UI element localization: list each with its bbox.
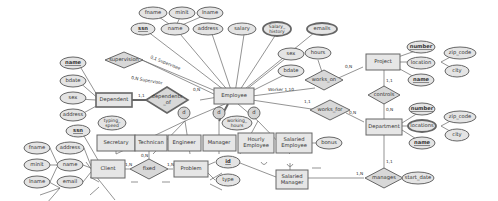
- svg-text:1,1: 1,1: [386, 78, 393, 83]
- svg-text:Problem: Problem: [180, 165, 201, 171]
- attr-typing-speed: typing_ speed: [98, 116, 126, 130]
- relationship-works-for[interactable]: works_for: [310, 100, 350, 120]
- svg-text:ssn: ssn: [138, 25, 148, 31]
- svg-text:name: name: [63, 161, 78, 167]
- entity-problem[interactable]: Problem: [174, 161, 208, 177]
- svg-text:0,N: 0,N: [193, 87, 200, 92]
- svg-text:locations: locations: [410, 122, 434, 128]
- svg-text:lname: lname: [202, 9, 218, 15]
- client-attributes: ssn address name email fname minit lname: [24, 125, 98, 188]
- entity-department[interactable]: Department: [366, 119, 402, 135]
- svg-text:Dependent: Dependent: [100, 96, 129, 103]
- entity-salaried-manager[interactable]: Salaried Manager: [276, 170, 308, 189]
- svg-text:city: city: [452, 67, 461, 74]
- department-attributes: number locations name zip_code city: [408, 103, 476, 149]
- svg-text:name: name: [414, 139, 431, 145]
- specialization-d1: d: [178, 107, 190, 119]
- svg-text:fname: fname: [29, 144, 46, 150]
- entity-technician[interactable]: Technican: [135, 135, 167, 151]
- project-attributes: number location name zip_code city: [407, 41, 476, 86]
- relationship-supervision[interactable]: supervision: [105, 52, 143, 68]
- svg-text:address: address: [60, 144, 81, 150]
- svg-text:number: number: [411, 105, 434, 111]
- svg-text:0,N: 0,N: [345, 64, 352, 69]
- svg-text:location: location: [411, 59, 432, 65]
- svg-text:Project: Project: [374, 58, 392, 65]
- svg-text:name: name: [65, 59, 82, 65]
- svg-text:history: history: [269, 29, 285, 34]
- svg-text:name: name: [413, 76, 430, 82]
- entity-employee[interactable]: Employee: [214, 88, 254, 104]
- svg-text:0,N: 0,N: [349, 110, 356, 115]
- svg-text:address: address: [198, 25, 219, 31]
- svg-text:0,N: 0,N: [386, 107, 393, 112]
- svg-text:Manager: Manager: [281, 179, 305, 186]
- svg-text:city: city: [452, 131, 461, 138]
- svg-text:lname: lname: [29, 178, 45, 184]
- svg-text:ssn: ssn: [73, 127, 83, 133]
- svg-text:bdate: bdate: [66, 77, 81, 83]
- svg-text:Employee: Employee: [243, 142, 269, 149]
- specialization-d3: d: [248, 107, 260, 119]
- entity-project[interactable]: Project: [366, 54, 400, 70]
- entity-secretary[interactable]: Secretary: [97, 135, 135, 151]
- relationship-manages[interactable]: manages: [365, 168, 403, 188]
- entity-salaried-employee[interactable]: Salaried Employee: [276, 133, 312, 153]
- employee-attributes: fname minit lname ssn name address salar…: [131, 7, 337, 77]
- svg-text:Client: Client: [100, 165, 115, 171]
- svg-text:_of: _of: [162, 99, 171, 106]
- svg-text:address: address: [63, 111, 84, 117]
- svg-text:1,1: 1,1: [386, 159, 393, 164]
- svg-text:0,N: 0,N: [141, 153, 148, 158]
- entity-client[interactable]: Client: [91, 160, 125, 178]
- svg-text:zip_code: zip_code: [449, 49, 472, 56]
- svg-text:d: d: [217, 109, 220, 115]
- svg-text:sex: sex: [69, 94, 78, 100]
- svg-text:works_for: works_for: [318, 106, 344, 113]
- svg-text:email: email: [63, 178, 77, 184]
- svg-text:controls: controls: [374, 91, 395, 97]
- attr-bonus: bonus: [312, 137, 342, 149]
- svg-text:1,1: 1,1: [304, 99, 311, 104]
- svg-text:zip_code: zip_code: [449, 113, 472, 120]
- svg-text:1,N: 1,N: [167, 162, 174, 167]
- svg-text:Technican: Technican: [137, 139, 164, 145]
- card-supervisee: 0,1 Supervisee: [150, 54, 182, 71]
- entity-hourly-employee[interactable]: Hourly Employee: [238, 133, 274, 153]
- svg-text:number: number: [410, 43, 433, 49]
- svg-text:manages: manages: [372, 174, 396, 181]
- specialization-d2: d: [213, 107, 225, 119]
- svg-text:hours: hours: [231, 123, 244, 128]
- svg-text:fixed: fixed: [143, 165, 156, 171]
- svg-text:Employee: Employee: [221, 92, 247, 99]
- svg-text:hours: hours: [311, 49, 326, 55]
- card-supervisor: 0,N Supervisor: [131, 75, 163, 85]
- svg-text:supervision: supervision: [109, 56, 139, 63]
- svg-text:d: d: [252, 109, 255, 115]
- dependent-attributes: name bdate sex address: [60, 57, 86, 121]
- attr-start-date: start_date: [402, 172, 434, 184]
- svg-text:1,N: 1,N: [356, 171, 363, 176]
- svg-text:type: type: [222, 176, 234, 183]
- svg-text:fname: fname: [145, 9, 162, 15]
- svg-text:minit: minit: [30, 161, 43, 167]
- svg-text:Employee: Employee: [281, 142, 307, 149]
- svg-text:d: d: [182, 109, 185, 115]
- entity-manager[interactable]: Manager: [203, 135, 236, 151]
- svg-text:minit: minit: [175, 9, 188, 15]
- relationship-controls[interactable]: controls: [368, 86, 400, 104]
- svg-text:id: id: [225, 158, 231, 164]
- relationship-works-on[interactable]: works_on: [305, 70, 343, 90]
- svg-text:start_date: start_date: [405, 174, 431, 181]
- entity-engineer[interactable]: Engineer: [168, 135, 201, 151]
- svg-text:bdate: bdate: [284, 67, 299, 73]
- svg-text:sex: sex: [287, 50, 296, 56]
- svg-text:name: name: [168, 25, 183, 31]
- svg-text:Manager: Manager: [208, 139, 232, 146]
- svg-text:emails: emails: [313, 25, 330, 31]
- attr-working-hours: working_ hours: [222, 116, 252, 130]
- svg-text:1,1: 1,1: [138, 93, 145, 98]
- er-diagram: fname minit lname ssn name address salar…: [0, 0, 498, 201]
- entity-dependent[interactable]: Dependent: [96, 93, 132, 107]
- problem-attributes: id type: [208, 156, 240, 186]
